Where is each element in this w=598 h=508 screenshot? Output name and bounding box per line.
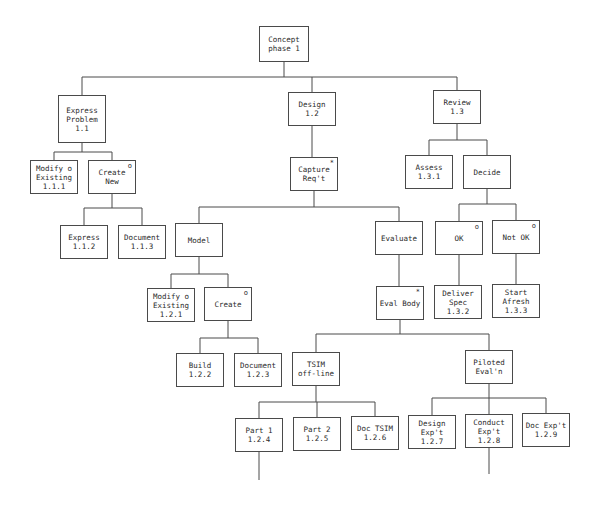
tree-node: Doc TSIM1.2.6 — [351, 416, 399, 450]
node-label-line: 1.2 — [305, 109, 319, 118]
node-label-line: Express — [68, 233, 100, 242]
node-label-line: Document — [124, 233, 160, 242]
asterisk-marker-icon: * — [416, 289, 420, 296]
node-label-line: Model — [188, 236, 211, 245]
node-label-line: Req't — [303, 174, 326, 183]
tree-node: Modify oExisting1.1.1 — [30, 160, 78, 194]
node-label-line: Modify o — [153, 292, 189, 301]
node-label-line: phase 1 — [268, 44, 300, 53]
tree-node: PilotedEval'n — [465, 350, 513, 384]
node-label-line: 1.2.1 — [160, 310, 183, 319]
node-label-line: Modify o — [36, 164, 72, 173]
hierarchy-diagram: Conceptphase 1ExpressProblem1.1Design1.2… — [0, 0, 598, 508]
node-label-line: 1.1.1 — [43, 182, 66, 191]
node-label-line: 1.2.6 — [364, 433, 387, 442]
tree-node: DeliverSpec1.3.2 — [434, 285, 482, 319]
tree-node: Part 21.2.5 — [293, 417, 341, 451]
node-label-line: 1.2.8 — [478, 436, 501, 445]
node-label-line: Decide — [473, 168, 500, 177]
node-label-line: Existing — [153, 301, 189, 310]
tree-node: ExpressProblem1.1 — [58, 95, 106, 143]
tree-node: TSIMoff-line — [292, 352, 340, 386]
tree-node: DesignExp't1.2.7 — [408, 415, 456, 449]
node-label-line: Express — [66, 106, 98, 115]
node-label-line: OK — [454, 234, 463, 243]
circle-marker-icon: o — [244, 290, 248, 297]
node-label-line: Deliver — [442, 289, 474, 298]
node-label-line: 1.2.7 — [421, 437, 444, 446]
tree-node: Assess1.3.1 — [405, 155, 453, 189]
node-label-line: 1.3.2 — [447, 307, 470, 316]
node-label-line: Piloted — [473, 358, 505, 367]
node-label-line: Part 2 — [303, 425, 330, 434]
node-label-line: 1.1.2 — [73, 242, 96, 251]
tree-node: Document1.1.3 — [118, 225, 166, 259]
node-label-line: 1.3.1 — [418, 172, 441, 181]
tree-node: Express1.1.2 — [60, 225, 108, 259]
tree-node: Build1.2.2 — [176, 353, 224, 387]
node-label-line: Start — [505, 288, 528, 297]
node-label-line: 1.2.9 — [535, 430, 558, 439]
tree-node: Not OKo — [492, 220, 540, 254]
tree-node: Design1.2 — [288, 92, 336, 126]
node-label-line: Design — [418, 419, 445, 428]
circle-marker-icon: o — [475, 224, 479, 231]
node-label-line: 1.2.3 — [247, 370, 270, 379]
node-label-line: Concept — [268, 35, 300, 44]
asterisk-marker-icon: * — [330, 160, 334, 167]
node-label-line: Doc TSIM — [357, 424, 393, 433]
tree-node: OKo — [435, 221, 483, 255]
node-label-line: 1.2.5 — [306, 434, 329, 443]
node-label-line: TSIM — [307, 360, 325, 369]
tree-node: Evaluate — [375, 221, 423, 255]
node-label-line: off-line — [298, 369, 334, 378]
tree-node: Review1.3 — [433, 90, 481, 124]
node-label-line: Afresh — [502, 297, 529, 306]
node-label-line: Create — [214, 300, 241, 309]
node-label-line: 1.2.4 — [248, 435, 271, 444]
node-label-line: Not OK — [502, 233, 529, 242]
tree-node: Modify oExisting1.2.1 — [147, 288, 195, 322]
node-label-line: Existing — [36, 173, 72, 182]
node-label-line: 1.1 — [75, 124, 89, 133]
node-label-line: Assess — [415, 163, 442, 172]
node-label-line: New — [105, 177, 119, 186]
tree-node: StartAfresh1.3.3 — [492, 284, 540, 318]
node-label-line: 1.2.2 — [189, 370, 212, 379]
tree-node: CreateNewo — [88, 160, 136, 194]
node-label-line: Document — [240, 361, 276, 370]
node-label-line: Doc Exp't — [526, 421, 567, 430]
node-label-line: Build — [189, 361, 212, 370]
node-label-line: Create — [98, 168, 125, 177]
node-label-line: Design — [298, 100, 325, 109]
node-label-line: Part 1 — [245, 426, 272, 435]
tree-node: Document1.2.3 — [234, 353, 282, 387]
tree-node: Eval Body* — [376, 286, 424, 320]
tree-node: CaptureReq't* — [290, 157, 338, 191]
node-label-line: 1.3.3 — [505, 306, 528, 315]
tree-node: Part 11.2.4 — [235, 418, 283, 452]
tree-node: ConductExp't1.2.8 — [465, 414, 513, 448]
circle-marker-icon: o — [128, 163, 132, 170]
tree-node: Model — [175, 223, 223, 257]
tree-node: Createo — [204, 287, 252, 321]
node-label-line: Problem — [66, 115, 98, 124]
circle-marker-icon: o — [532, 223, 536, 230]
node-label-line: 1.1.3 — [131, 242, 154, 251]
node-label-line: Exp't — [478, 427, 501, 436]
node-label-line: Eval'n — [475, 367, 502, 376]
tree-node: Decide — [463, 155, 511, 189]
node-label-line: Eval Body — [380, 299, 421, 308]
node-label-line: Conduct — [473, 418, 505, 427]
tree-node: Conceptphase 1 — [259, 26, 309, 62]
node-label-line: Exp't — [421, 428, 444, 437]
node-label-line: Review — [443, 98, 470, 107]
node-label-line: Capture — [298, 165, 330, 174]
node-label-line: 1.3 — [450, 107, 464, 116]
node-label-line: Evaluate — [381, 234, 417, 243]
tree-node: Doc Exp't1.2.9 — [522, 413, 570, 447]
node-label-line: Spec — [449, 298, 467, 307]
